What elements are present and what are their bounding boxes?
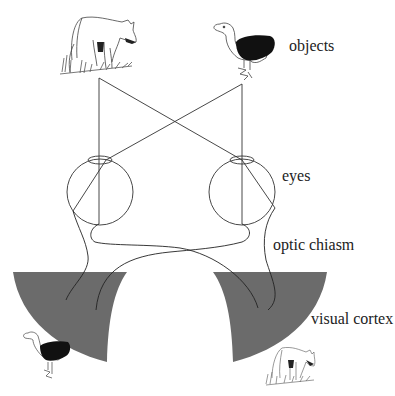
ray-wolf-to-right-eye	[99, 78, 242, 160]
light-rays	[99, 78, 242, 160]
right-visual-cortex	[213, 272, 327, 362]
wolf-object-icon	[60, 17, 136, 74]
bird-object-icon	[214, 23, 275, 80]
label-objects: objects	[289, 37, 334, 55]
label-eyes: eyes	[282, 167, 310, 185]
right-eye	[209, 156, 275, 225]
wolf-cortex-image-icon	[266, 347, 315, 385]
label-optic-chiasm: optic chiasm	[273, 236, 354, 254]
label-visual-cortex: visual cortex	[311, 310, 393, 328]
left-eye	[67, 156, 133, 225]
visual-pathway-diagram	[0, 0, 395, 396]
